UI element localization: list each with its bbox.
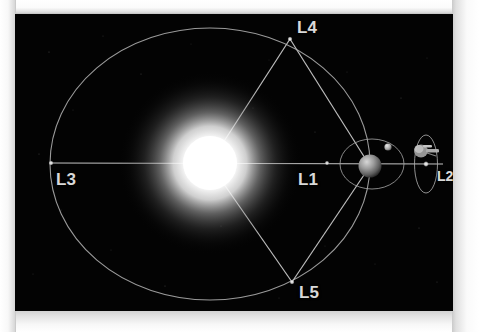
point-marker-l3[interactable] bbox=[48, 160, 53, 165]
mount-edge-right bbox=[452, 0, 479, 332]
mount-edge-bottom bbox=[0, 310, 479, 332]
mount-edge-top bbox=[0, 0, 479, 14]
diagram-svg bbox=[15, 14, 453, 311]
point-marker-l5[interactable] bbox=[289, 279, 294, 284]
label-l4: L4 bbox=[297, 18, 317, 38]
earth-body bbox=[359, 155, 382, 178]
label-l1: L1 bbox=[298, 170, 318, 190]
mount-edge-left bbox=[0, 0, 16, 332]
line-earth-to-l4 bbox=[290, 39, 370, 166]
moon-body bbox=[384, 143, 391, 150]
lagrange-points-figure: L4 L3 L1 L2 L5 bbox=[0, 0, 479, 332]
point-marker-l2[interactable] bbox=[423, 161, 429, 167]
label-l3: L3 bbox=[56, 170, 76, 190]
label-l5: L5 bbox=[299, 283, 319, 303]
space-canvas: L4 L3 L1 L2 L5 bbox=[15, 14, 453, 311]
sun-core bbox=[183, 136, 237, 190]
point-marker-l1[interactable] bbox=[325, 161, 330, 166]
point-marker-l4[interactable] bbox=[287, 36, 292, 41]
label-l2: L2 bbox=[437, 168, 453, 184]
